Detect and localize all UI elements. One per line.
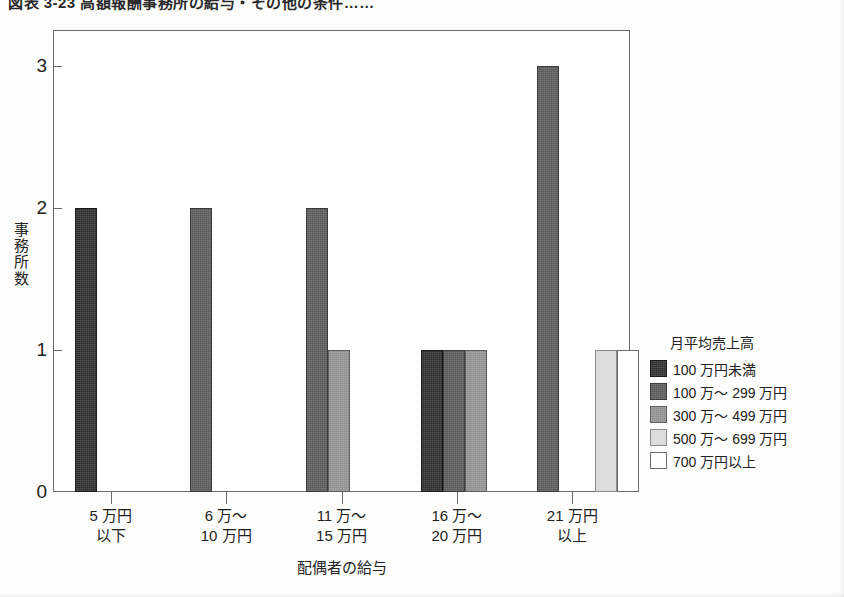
legend-swatch — [650, 406, 667, 423]
bar — [537, 66, 559, 492]
x-tick-label-line: 15 万円 — [282, 526, 402, 546]
legend-label: 700 万円以上 — [673, 451, 756, 471]
x-tick-label: 16 万～20 万円 — [397, 506, 517, 547]
legend-rows: 100 万円未満100 万～ 299 万円300 万～ 499 万円500 万～… — [650, 357, 840, 472]
legend-swatch — [650, 452, 667, 469]
legend-swatch — [650, 429, 667, 446]
legend-item[interactable]: 700 万円以上 — [650, 449, 840, 472]
x-tick-mark — [226, 492, 227, 504]
bar — [190, 208, 212, 492]
x-axis-title: 配偶者の給与 — [0, 556, 683, 577]
bar — [328, 350, 350, 492]
scan-bottom-shadow — [0, 593, 844, 597]
x-tick-label-line: 10 万円 — [166, 526, 286, 546]
y-axis-tick-labels: 0123 — [6, 30, 47, 492]
figure-title-strip: 図表 3-23 高額報酬事務所の給与・その他の条件…… — [0, 0, 844, 11]
bar — [617, 350, 639, 492]
legend-label: 100 万円未満 — [673, 359, 756, 379]
x-tick-mark — [572, 492, 573, 504]
x-tick-mark — [111, 492, 112, 504]
legend-swatch — [650, 383, 667, 400]
x-tick-label: 6 万～10 万円 — [166, 506, 286, 547]
legend: 月平均売上高 100 万円未満100 万～ 299 万円300 万～ 499 万… — [650, 332, 840, 472]
bar — [595, 350, 617, 492]
x-tick-label-line: 21 万円 — [512, 506, 632, 526]
bar — [75, 208, 97, 492]
legend-item[interactable]: 100 万円未満 — [650, 357, 840, 380]
x-tick-label-line: 以上 — [512, 526, 632, 546]
bar — [421, 350, 443, 492]
x-tick-mark — [342, 492, 343, 504]
plot-area — [53, 30, 630, 492]
y-tick-label: 0 — [13, 481, 47, 503]
legend-item[interactable]: 100 万～ 299 万円 — [650, 380, 840, 403]
legend-title: 月平均売上高 — [670, 332, 840, 352]
bar — [306, 208, 328, 492]
x-tick-label: 11 万～15 万円 — [282, 506, 402, 547]
y-tick-label: 3 — [13, 55, 47, 77]
x-tick-label-line: 以下 — [51, 526, 171, 546]
bar — [443, 350, 465, 492]
x-tick-label-line: 6 万～ — [166, 506, 286, 526]
x-tick-label-line: 16 万～ — [397, 506, 517, 526]
x-tick-label-line: 20 万円 — [397, 526, 517, 546]
legend-label: 300 万～ 499 万円 — [673, 405, 787, 425]
legend-item[interactable]: 300 万～ 499 万円 — [650, 403, 840, 426]
x-tick-mark — [457, 492, 458, 504]
y-tick-label: 1 — [13, 339, 47, 361]
chart-page: 図表 3-23 高額報酬事務所の給与・その他の条件…… 事務所数 0123 5 … — [0, 0, 844, 597]
y-tick-label: 2 — [13, 197, 47, 219]
x-tick-label-line: 11 万～ — [282, 506, 402, 526]
legend-label: 500 万～ 699 万円 — [673, 428, 787, 448]
legend-item[interactable]: 500 万～ 699 万円 — [650, 426, 840, 449]
legend-swatch — [650, 360, 667, 377]
x-tick-label: 5 万円以下 — [51, 506, 171, 547]
figure-title: 図表 3-23 高額報酬事務所の給与・その他の条件…… — [8, 0, 375, 11]
x-tick-label-line: 5 万円 — [51, 506, 171, 526]
bar — [465, 350, 487, 492]
legend-label: 100 万～ 299 万円 — [673, 382, 787, 402]
x-tick-label: 21 万円以上 — [512, 506, 632, 547]
scan-edge-shadow — [839, 0, 844, 597]
